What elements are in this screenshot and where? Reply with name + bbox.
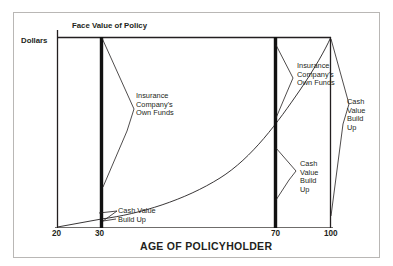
x-tick-label-30: 30 [95,229,104,238]
face-value-of-policy-label: Face Value of Policy [72,22,147,31]
insurance-diagram-figure: Dollars Face Value of Policy Insurance C… [0,0,393,266]
x-axis-title: AGE OF POLICYHOLDER [140,240,272,252]
annotation-insurance-own-funds-right: Insurance Company's Own Funds [297,62,335,88]
leader-insurance-left [102,38,134,187]
annotation-insurance-own-funds-left: Insurance Company's Own Funds [136,92,174,118]
leader-cash-middle [276,148,296,200]
annotation-cash-value-build-up-left: Cash Value Build Up [118,207,156,224]
leader-insurance-right [276,45,293,118]
annotation-cash-value-build-up-middle: Cash Value Build Up [300,160,318,194]
x-tick-label-100: 100 [324,229,338,238]
diagram-drawing [0,0,393,266]
x-tick-label-20: 20 [52,229,61,238]
y-axis-label: Dollars [21,37,47,46]
cash-value-curve [58,38,331,227]
x-tick-label-70: 70 [271,229,280,238]
annotation-cash-value-build-up-right: Cash Value Build Up [347,98,365,132]
